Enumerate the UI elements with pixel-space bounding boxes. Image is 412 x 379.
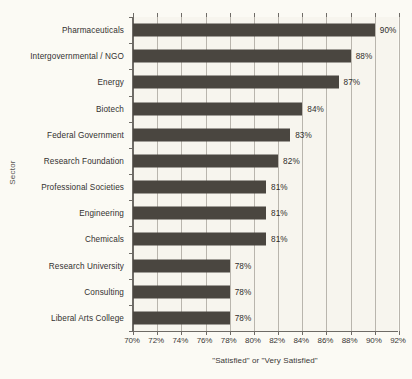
x-axis-tick-label: 76% <box>197 336 213 345</box>
x-axis-tick-label: 74% <box>173 336 189 345</box>
x-axis-tick-label: 86% <box>318 336 334 345</box>
y-axis-tick <box>129 43 133 44</box>
x-axis-tick-label: 72% <box>148 336 164 345</box>
x-axis-tick <box>133 13 134 17</box>
x-axis-tick-label: 82% <box>269 336 285 345</box>
x-axis-tick-labels: 70%72%74%76%78%80%82%84%86%88%90%92% <box>132 336 398 350</box>
x-axis-tick <box>206 13 207 17</box>
bar <box>133 207 266 220</box>
bar <box>133 50 351 63</box>
bar-value-label: 82% <box>283 156 300 165</box>
gridline <box>133 17 134 331</box>
y-axis-tick <box>129 69 133 70</box>
x-axis-tick-label: 88% <box>342 336 358 345</box>
x-axis-tick-label: 84% <box>293 336 309 345</box>
y-axis-tick <box>129 253 133 254</box>
x-axis-tick <box>399 13 400 17</box>
x-axis-line <box>132 331 398 332</box>
category-label: Engineering <box>79 209 124 218</box>
bar-value-label: 81% <box>271 209 288 218</box>
category-label: Federal Government <box>47 130 124 139</box>
bar-value-label: 84% <box>307 104 324 113</box>
x-axis-tick <box>399 331 400 335</box>
bar-value-label: 78% <box>235 261 252 270</box>
bar-value-label: 88% <box>356 52 373 61</box>
plot-area: 90%88%87%84%83%82%81%81%81%78%78%78% <box>132 17 398 331</box>
y-axis-tick <box>129 96 133 97</box>
bar <box>133 311 230 324</box>
x-axis-tick <box>254 13 255 17</box>
category-label: Pharmaceuticals <box>62 26 124 35</box>
bar <box>133 154 278 167</box>
category-label: Biotech <box>96 104 124 113</box>
bar-value-label: 78% <box>235 313 252 322</box>
gridline <box>278 17 279 331</box>
gridline <box>302 17 303 331</box>
x-axis-tick-label: 78% <box>221 336 237 345</box>
y-axis-tick <box>129 226 133 227</box>
gridline <box>351 17 352 331</box>
y-axis-tick <box>129 17 133 18</box>
bar-value-label: 83% <box>295 130 312 139</box>
gridline <box>181 17 182 331</box>
x-axis-tick <box>157 13 158 17</box>
x-axis-tick <box>278 13 279 17</box>
bar-value-label: 90% <box>380 26 397 35</box>
category-label: Energy <box>97 78 124 87</box>
category-label: Research University <box>49 261 124 270</box>
category-label: Liberal Arts College <box>51 313 124 322</box>
x-axis-tick <box>302 13 303 17</box>
bar <box>133 233 266 246</box>
y-axis-tick <box>129 200 133 201</box>
x-axis-tick <box>375 13 376 17</box>
x-axis-tick-label: 70% <box>124 336 140 345</box>
bar <box>133 181 266 194</box>
x-axis-tick <box>230 13 231 17</box>
bar-value-label: 78% <box>235 287 252 296</box>
bar <box>133 24 375 37</box>
x-axis-tick-label: 92% <box>390 336 406 345</box>
bar <box>133 285 230 298</box>
x-axis-title: "Satisfied" or "Very Satisfied" <box>132 356 398 365</box>
bar <box>133 102 302 115</box>
y-axis-tick <box>129 174 133 175</box>
bar-value-label: 81% <box>271 235 288 244</box>
gridline <box>375 17 376 331</box>
bar-value-label: 81% <box>271 183 288 192</box>
x-axis-tick <box>351 13 352 17</box>
x-axis-tick-label: 80% <box>245 336 261 345</box>
bar <box>133 76 339 89</box>
bar <box>133 128 290 141</box>
category-label: Research Foundation <box>44 156 124 165</box>
category-axis: PharmaceuticalsIntergovernmental / NGOEn… <box>0 17 128 331</box>
category-label: Intergovernmental / NGO <box>30 52 124 61</box>
category-label: Professional Societies <box>41 183 124 192</box>
bar <box>133 259 230 272</box>
y-axis-tick <box>129 305 133 306</box>
gridline <box>326 17 327 331</box>
y-axis-tick <box>129 122 133 123</box>
x-axis-tick-label: 90% <box>366 336 382 345</box>
gridline <box>206 17 207 331</box>
bar-chart: Sector PharmaceuticalsIntergovernmental … <box>0 0 412 379</box>
gridline <box>230 17 231 331</box>
x-axis-tick <box>181 13 182 17</box>
gridline <box>254 17 255 331</box>
category-label: Consulting <box>84 287 124 296</box>
y-axis-tick <box>129 279 133 280</box>
category-label: Chemicals <box>85 235 124 244</box>
y-axis-tick <box>129 148 133 149</box>
x-axis-tick <box>326 13 327 17</box>
gridline <box>399 17 400 331</box>
gridline <box>157 17 158 331</box>
bar-value-label: 87% <box>344 78 361 87</box>
